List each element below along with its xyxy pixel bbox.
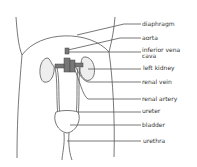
body-outline-right xyxy=(109,17,115,157)
bladder-shape xyxy=(55,111,80,134)
label-diaphragm: diaphragm xyxy=(142,21,175,27)
label-inferior-vena-cava-2: cava xyxy=(142,53,156,59)
aorta-lower xyxy=(70,60,75,72)
label-renal-artery: renal artery xyxy=(142,96,177,102)
renal-vessel-right xyxy=(55,64,64,68)
label-aorta: aorta xyxy=(142,35,158,41)
leader-diaphragm xyxy=(77,24,124,35)
label-bladder: bladder xyxy=(142,122,165,128)
label-urethra: urethra xyxy=(143,138,165,144)
ivc-vessel xyxy=(64,58,70,72)
body-outline-left xyxy=(16,17,22,158)
right-kidney xyxy=(40,58,54,82)
renal-vessel-left xyxy=(75,63,83,67)
urethra-right xyxy=(69,133,72,160)
label-left-kidney: left kidney xyxy=(143,65,175,71)
urinary-system-diagram: diaphragm aorta inferior vena cava left … xyxy=(0,0,197,167)
label-renal-vein: renal vein xyxy=(142,79,172,85)
leader-aorta xyxy=(68,38,120,50)
right-ureter xyxy=(55,68,58,115)
label-ureter: ureter xyxy=(142,108,160,114)
aorta-vessel xyxy=(65,48,69,54)
urethra-left xyxy=(62,133,64,160)
